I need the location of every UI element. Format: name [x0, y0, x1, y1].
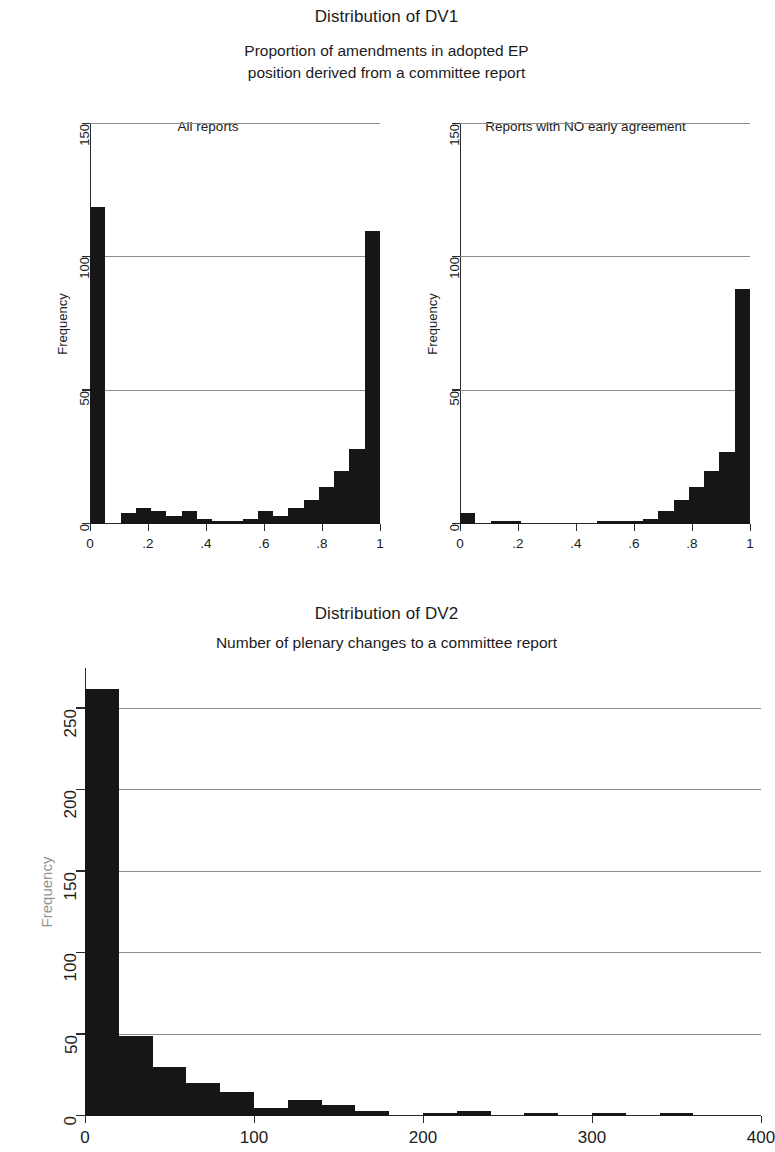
histogram-bar: [322, 1105, 356, 1116]
histogram-bar: [182, 511, 197, 524]
histogram-bar: [288, 1100, 322, 1116]
histogram-bar: [243, 519, 258, 524]
x-tick-mark: [148, 524, 149, 531]
histogram-bar: [597, 521, 612, 524]
histogram-bar: [319, 487, 334, 524]
gridline: [90, 390, 380, 391]
histogram-bar: [136, 508, 151, 524]
histogram-bar: [288, 508, 303, 524]
x-tick-mark: [460, 524, 461, 531]
plot-area-no-early-agreement: 050100150 0.2.4.6.81 Frequency: [460, 124, 750, 524]
histogram-bar: [212, 521, 227, 524]
x-tick-label: 1: [376, 536, 384, 551]
x-tick-mark: [518, 524, 519, 531]
gridline: [90, 256, 380, 257]
y-axis-title: Frequency: [55, 293, 70, 354]
histogram-bar: [90, 207, 105, 524]
panel-all-reports: All reports 050100150 0.2.4.6.81 Frequen…: [18, 112, 398, 552]
y-tick-label: 200: [61, 790, 81, 818]
y-tick-label: 150: [447, 124, 462, 146]
x-tick-label: 1: [746, 536, 754, 551]
histogram-bar: [197, 519, 212, 524]
histogram-bar: [524, 1113, 558, 1116]
histogram-bar: [153, 1067, 187, 1116]
histogram-bar: [460, 513, 475, 524]
histogram-bar: [151, 511, 166, 524]
histogram-bar: [334, 471, 349, 524]
y-tick-label: 100: [77, 257, 92, 279]
histogram-bar: [227, 521, 242, 524]
x-tick-mark: [85, 1116, 86, 1123]
histogram-bar: [643, 519, 658, 524]
x-tick-mark: [90, 524, 91, 531]
gridline: [460, 123, 750, 124]
x-tick-mark: [592, 1116, 593, 1123]
y-axis-title: Frequency: [425, 293, 440, 354]
histogram-bar: [365, 231, 380, 524]
x-tick-mark: [254, 1116, 255, 1123]
histogram-bar: [592, 1113, 626, 1116]
histogram-bar: [220, 1092, 254, 1116]
y-tick-label: 0: [61, 1116, 81, 1125]
x-tick-label: 300: [578, 1128, 606, 1148]
histogram-bar: [660, 1113, 694, 1116]
x-tick-label: .6: [628, 536, 639, 551]
x-tick-mark: [322, 524, 323, 531]
x-tick-mark: [634, 524, 635, 531]
x-tick-label: .8: [316, 536, 327, 551]
x-tick-mark: [206, 524, 207, 531]
x-tick-label: 100: [240, 1128, 268, 1148]
gridline: [85, 708, 761, 709]
gridline: [460, 390, 750, 391]
histogram-bar: [304, 500, 319, 524]
histogram-bar: [258, 511, 273, 524]
x-tick-label: .2: [142, 536, 153, 551]
axis-frame: [90, 124, 380, 524]
axis-frame: [460, 124, 750, 524]
histogram-bar: [273, 516, 288, 524]
histogram-bar: [166, 516, 181, 524]
y-tick-label: 250: [61, 709, 81, 737]
figure-dv1: Distribution of DV1 Proportion of amendm…: [0, 0, 773, 560]
x-tick-mark: [750, 524, 751, 531]
histogram-bar: [85, 689, 119, 1116]
histogram-bar: [119, 1036, 153, 1116]
x-tick-mark: [761, 1116, 762, 1123]
x-tick-label: 0: [456, 536, 464, 551]
x-tick-label: 0: [80, 1128, 89, 1148]
y-tick-label: 100: [447, 257, 462, 279]
histogram-bar: [719, 452, 734, 524]
y-tick-label: 150: [77, 124, 92, 146]
gridline: [85, 1034, 761, 1035]
x-tick-label: 400: [747, 1128, 775, 1148]
x-tick-label: 200: [409, 1128, 437, 1148]
histogram-bar: [689, 487, 704, 524]
figure1-subtitle: Proportion of amendments in adopted EP p…: [0, 40, 773, 85]
histogram-bar: [735, 289, 750, 524]
x-tick-label: .4: [200, 536, 211, 551]
x-tick-mark: [692, 524, 693, 531]
histogram-bar: [491, 521, 506, 524]
x-tick-mark: [264, 524, 265, 531]
y-tick-label: 100: [61, 953, 81, 981]
x-tick-label: 0: [86, 536, 94, 551]
x-tick-label: .4: [570, 536, 581, 551]
y-axis-title: Frequency: [38, 857, 55, 928]
histogram-bar: [613, 521, 628, 524]
figure1-title: Distribution of DV1: [0, 7, 773, 27]
y-tick-label: 50: [447, 391, 462, 405]
y-tick-label: 50: [77, 391, 92, 405]
histogram-bar: [674, 500, 689, 524]
gridline: [85, 871, 761, 872]
plot-area-dv2: 050100150200250 0100200300400 Frequency: [85, 668, 761, 1116]
figure2-title: Distribution of DV2: [0, 604, 773, 624]
gridline: [85, 789, 761, 790]
gridline: [85, 952, 761, 953]
axis-frame: [85, 668, 761, 1116]
histogram-bar: [457, 1111, 491, 1116]
x-tick-label: .2: [512, 536, 523, 551]
histogram-bar: [628, 521, 643, 524]
x-tick-mark: [423, 1116, 424, 1123]
histogram-bar: [658, 511, 673, 524]
